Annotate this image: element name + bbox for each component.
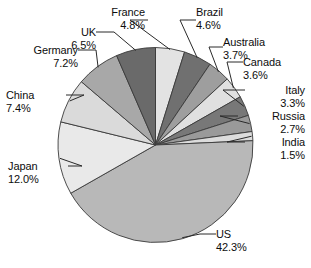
- pie-label-uk-value: 6.5%: [50, 39, 96, 52]
- pie-label-us: US 42.3%: [216, 228, 280, 253]
- pie-label-india-value: 1.5%: [245, 149, 305, 162]
- pie-label-france-name: France: [85, 6, 145, 19]
- pie-label-brazil-name: Brazil: [196, 6, 256, 19]
- leader-line-uk: [96, 32, 136, 51]
- pie-label-australia-name: Australia: [223, 36, 297, 49]
- pie-label-japan-value: 12.0%: [8, 173, 68, 186]
- pie-label-china-name: China: [6, 89, 66, 102]
- pie-slices-group: [58, 48, 253, 243]
- pie-label-italy-name: Italy: [245, 84, 305, 97]
- pie-label-canada: Canada 3.6%: [243, 56, 307, 81]
- pie-label-italy-value: 3.3%: [245, 97, 305, 110]
- pie-label-russia: Russia 2.7%: [238, 110, 305, 135]
- pie-label-us-name: US: [216, 228, 280, 241]
- pie-chart: France 4.8% Brazil 4.6% Australia 3.7% C…: [0, 0, 311, 268]
- pie-label-canada-value: 3.6%: [243, 69, 307, 82]
- pie-label-italy: Italy 3.3%: [245, 84, 305, 109]
- pie-label-china: China 7.4%: [6, 89, 66, 114]
- pie-label-russia-name: Russia: [238, 110, 305, 123]
- pie-label-brazil-value: 4.6%: [196, 19, 256, 32]
- pie-label-us-value: 42.3%: [216, 241, 280, 254]
- pie-label-india: India 1.5%: [245, 136, 305, 161]
- leader-line-germany: [78, 50, 98, 67]
- pie-label-brazil: Brazil 4.6%: [196, 6, 256, 31]
- pie-label-uk-name: UK: [50, 26, 96, 39]
- pie-label-uk: UK 6.5%: [50, 26, 96, 51]
- pie-label-canada-name: Canada: [243, 56, 307, 69]
- pie-label-china-value: 7.4%: [6, 102, 66, 115]
- pie-label-germany-value: 7.2%: [12, 57, 78, 70]
- pie-label-japan: Japan 12.0%: [8, 160, 68, 185]
- pie-label-india-name: India: [245, 136, 305, 149]
- pie-label-japan-name: Japan: [8, 160, 68, 173]
- pie-label-russia-value: 2.7%: [238, 123, 305, 136]
